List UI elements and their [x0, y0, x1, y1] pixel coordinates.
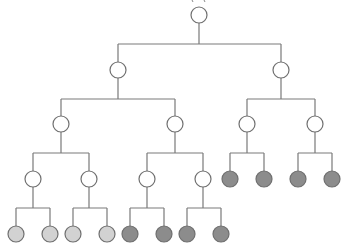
tree-connector	[61, 78, 175, 116]
tree-node-dark	[122, 226, 138, 242]
tree-node-white	[239, 116, 255, 132]
clipped-top-marks	[192, 0, 205, 2]
tree-node-dark	[256, 171, 272, 187]
tree-node-dark	[156, 226, 172, 242]
tree-node-light	[8, 226, 24, 242]
tree-node-white	[139, 171, 155, 187]
tree-node-dark	[290, 171, 306, 187]
tree-node-dark	[179, 226, 195, 242]
tree-node-white	[167, 116, 183, 132]
tree-node-white	[273, 62, 289, 78]
tree-connector	[147, 132, 203, 171]
tree-connector	[230, 132, 264, 171]
tree-node-white	[53, 116, 69, 132]
tree-node-white	[25, 171, 41, 187]
tree-connector	[16, 187, 50, 226]
tree-connector	[247, 78, 315, 116]
tree-diagram-canvas	[0, 0, 351, 252]
tree-node-light	[42, 226, 58, 242]
tree-connector	[187, 187, 221, 226]
tree-node-dark	[213, 226, 229, 242]
tree-node-white	[195, 171, 211, 187]
tree-nodes	[8, 7, 340, 242]
tree-node-white	[81, 171, 97, 187]
tree-node-dark	[222, 171, 238, 187]
tree-node-white	[307, 116, 323, 132]
tree-node-light	[65, 226, 81, 242]
tree-connector	[118, 23, 281, 62]
tree-connector	[33, 132, 89, 171]
tree-connector	[130, 187, 164, 226]
tree-node-dark	[324, 171, 340, 187]
tree-connector	[73, 187, 107, 226]
tree-diagram	[0, 0, 351, 252]
tree-node-white	[110, 62, 126, 78]
tree-node-white	[191, 7, 207, 23]
tree-node-light	[99, 226, 115, 242]
tree-connector	[298, 132, 332, 171]
